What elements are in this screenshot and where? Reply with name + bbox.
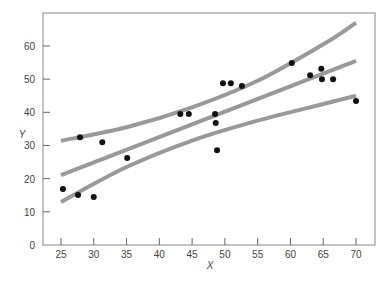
data-point bbox=[75, 192, 81, 198]
data-point bbox=[212, 111, 218, 117]
data-point bbox=[318, 66, 324, 72]
data-point bbox=[91, 194, 97, 200]
data-point bbox=[60, 186, 66, 192]
x-tick-label: 65 bbox=[318, 249, 330, 260]
x-tick-label: 60 bbox=[285, 249, 297, 260]
x-tick-label: 55 bbox=[252, 249, 264, 260]
x-tick-label: 30 bbox=[88, 249, 100, 260]
x-tick-label: 25 bbox=[55, 249, 67, 260]
x-tick-label: 45 bbox=[187, 249, 199, 260]
x-axis-label: X bbox=[206, 260, 214, 271]
data-point bbox=[353, 98, 359, 104]
data-point bbox=[330, 76, 336, 82]
fit-curve bbox=[61, 23, 356, 141]
x-tick-label: 35 bbox=[121, 249, 133, 260]
fit-curve bbox=[61, 96, 356, 202]
y-tick-label: 20 bbox=[24, 174, 36, 185]
data-point bbox=[77, 134, 83, 140]
y-tick-label: 0 bbox=[29, 240, 35, 251]
fit-curve bbox=[61, 61, 356, 175]
data-point bbox=[186, 111, 192, 117]
data-point bbox=[213, 120, 219, 126]
data-point bbox=[214, 147, 220, 153]
data-point bbox=[99, 139, 105, 145]
y-tick-label: 40 bbox=[24, 107, 36, 118]
plot-frame bbox=[43, 13, 375, 245]
x-tick-label: 40 bbox=[154, 249, 166, 260]
data-point bbox=[307, 72, 313, 78]
y-tick-label: 30 bbox=[24, 140, 36, 151]
data-point bbox=[177, 111, 183, 117]
y-tick-label: 50 bbox=[24, 74, 36, 85]
y-tick-label: 60 bbox=[24, 41, 36, 52]
y-axis: 0102030405060 bbox=[24, 41, 50, 251]
x-axis: 25303540455055606570 bbox=[55, 238, 362, 260]
data-point bbox=[239, 83, 245, 89]
x-tick-label: 70 bbox=[350, 249, 362, 260]
scatter-plot: 25303540455055606570 0102030405060 X Y bbox=[0, 0, 391, 284]
data-point bbox=[289, 60, 295, 66]
data-point bbox=[220, 80, 226, 86]
y-axis-label: Y bbox=[19, 129, 27, 140]
fit-curves bbox=[61, 23, 356, 202]
y-tick-label: 10 bbox=[24, 207, 36, 218]
data-point bbox=[124, 155, 130, 161]
data-point bbox=[319, 76, 325, 82]
data-point bbox=[228, 80, 234, 86]
x-tick-label: 50 bbox=[219, 249, 231, 260]
